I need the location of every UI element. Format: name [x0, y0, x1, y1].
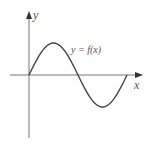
x-axis-label: x [133, 78, 140, 92]
y-axis-arrow-icon [26, 11, 32, 19]
function-graph: y x y = f(x) [0, 0, 148, 148]
curve-label: y = f(x) [70, 44, 102, 56]
y-axis-label: y [32, 8, 39, 22]
